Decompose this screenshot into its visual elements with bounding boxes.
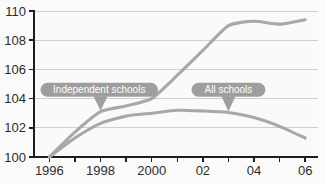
y-axis-tick-label: 108 xyxy=(4,33,26,48)
callout-label: All schools xyxy=(205,84,253,95)
x-axis-labels: 199619982000020406 xyxy=(35,163,313,178)
y-axis-labels: 100102104106108110 xyxy=(4,4,26,165)
callout-label: Independent schools xyxy=(53,84,145,95)
chart-canvas: 100102104106108110 199619982000020406 In… xyxy=(0,0,325,185)
y-axis-tick-label: 100 xyxy=(4,150,26,165)
x-axis-tick-label: 04 xyxy=(247,163,261,178)
y-axis-tick-label: 104 xyxy=(4,91,26,106)
y-axis-tick-label: 102 xyxy=(4,120,26,135)
x-axis-tick-label: 1998 xyxy=(86,163,115,178)
line-chart: 100102104106108110 199619982000020406 In… xyxy=(0,0,325,185)
x-axis-tick-label: 02 xyxy=(196,163,210,178)
y-axis-tick-label: 110 xyxy=(5,4,26,19)
y-axis-tick-label: 106 xyxy=(4,62,26,77)
x-axis-tick-label: 06 xyxy=(298,163,312,178)
x-axis-tick-label: 2000 xyxy=(137,163,166,178)
x-axis-tick-label: 1996 xyxy=(35,163,64,178)
